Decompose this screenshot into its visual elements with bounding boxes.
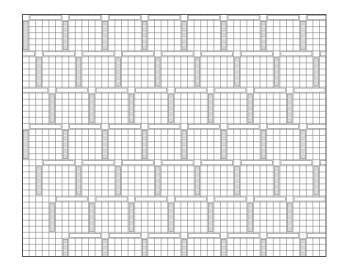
woven-pattern-grid	[22, 14, 327, 257]
